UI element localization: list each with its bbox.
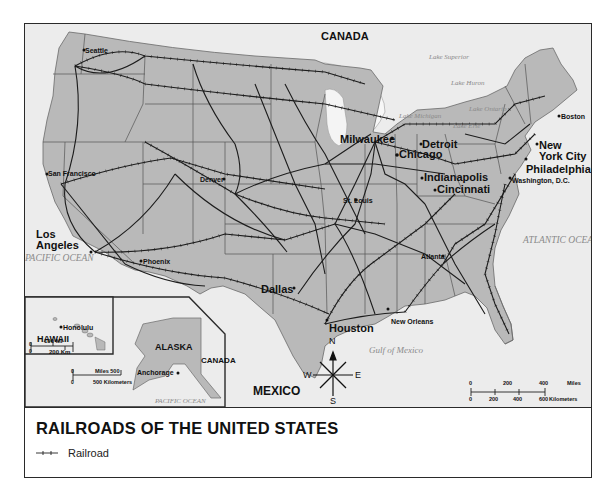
pacific-ocean-label: PACIFIC OCEAN	[25, 254, 77, 264]
hawaii-scale-miles: 100 MI	[44, 338, 62, 344]
compass-north-label: N	[329, 337, 336, 346]
city-label-milwaukee: Milwaukee	[340, 134, 395, 145]
city-label-los-angeles: Los Angeles	[36, 229, 82, 251]
city-label-honolulu: Honolulu	[63, 324, 93, 331]
country-label-canada-alaska: CANADA	[201, 357, 236, 365]
scale-km-0: 0	[469, 397, 472, 403]
compass-west-label: W	[303, 371, 312, 380]
lake-ontario-label: Lake Ontario	[469, 106, 499, 113]
city-label-chicago: Chicago	[399, 149, 442, 160]
compass-east-label: E	[355, 371, 361, 380]
lake-erie-label: Lake Erie	[453, 123, 475, 130]
alaska-scale-zero-top: 0	[71, 369, 74, 374]
scale-km-400: 400	[513, 397, 522, 403]
hawaii-scale-zero-top: 0	[29, 342, 32, 347]
atlantic-ocean-label: ATLANTIC OCEAN	[523, 236, 573, 246]
city-label-houston: Houston	[329, 323, 374, 334]
city-label-st-louis: St. Louis	[343, 197, 373, 204]
alaska-scale-zero-bottom: 0	[71, 380, 74, 385]
scale-km-600: 600	[539, 397, 548, 403]
map-frame: CANADA CANADA MEXICO Lake Superior Lake …	[24, 23, 592, 478]
city-label-anchorage: Anchorage	[137, 369, 174, 376]
scale-miles-0: 0	[469, 381, 472, 387]
city-label-seattle: Seattle	[85, 47, 108, 54]
lake-michigan-label: Lake Michigan	[399, 113, 429, 120]
lake-superior-label: Lake Superior	[429, 54, 463, 61]
scale-km-200: 200	[489, 397, 498, 403]
alaska-label: ALASKA	[155, 343, 193, 352]
compass-south-label: S	[330, 397, 336, 406]
map-title: RAILROADS OF THE UNITED STATES	[36, 419, 338, 438]
country-label-mexico: MEXICO	[253, 385, 300, 397]
city-label-dallas: Dallas	[261, 284, 293, 295]
city-label-phoenix: Phoenix	[143, 258, 170, 265]
scale-km-label: Kilometers	[549, 397, 577, 403]
legend-label-railroad: Railroad	[68, 447, 109, 459]
city-label-philadelphia: Philadelphia	[526, 164, 591, 175]
lake-huron-label: Lake Huron	[451, 80, 479, 87]
city-label-cincinnati: Cincinnati	[437, 184, 490, 195]
hawaii-scale-km: 200 Km	[49, 349, 70, 355]
city-label-denver: Denver	[200, 176, 224, 183]
scale-miles-label: Miles	[567, 381, 581, 387]
city-label-atlanta: Atlanta	[421, 253, 445, 260]
city-label-san-francisco: San Francisco	[48, 170, 96, 177]
railroad-line-icon	[36, 450, 58, 456]
city-label-new-york-city: New York City	[539, 140, 587, 162]
alaska-scale-miles: Miles 500	[95, 369, 119, 375]
country-label-canada: CANADA	[321, 31, 369, 42]
legend-item-railroad: Railroad	[36, 447, 109, 459]
railroad-map: CANADA CANADA MEXICO Lake Superior Lake …	[25, 24, 591, 408]
scale-miles-400: 400	[539, 381, 548, 387]
hawaii-scale-zero-bottom: 0	[29, 349, 32, 354]
city-label-detroit: Detroit	[422, 139, 457, 150]
gulf-of-mexico-label: Gulf of Mexico	[369, 346, 423, 355]
map-graphic	[25, 24, 591, 407]
city-label-washington-dc: Washington, D.C.	[512, 177, 570, 184]
map-legend: RAILROADS OF THE UNITED STATES Railroad	[25, 407, 591, 477]
alaska-scale-km: 500 Kilometers	[93, 380, 132, 386]
city-label-indianapolis: Indianapolis	[424, 172, 488, 183]
pacific-ocean-alaska-label: PACIFIC OCEAN	[155, 398, 206, 405]
scale-miles-200: 200	[503, 381, 512, 387]
city-label-new-orleans: New Orleans	[391, 318, 433, 325]
city-label-boston: Boston	[561, 113, 585, 120]
